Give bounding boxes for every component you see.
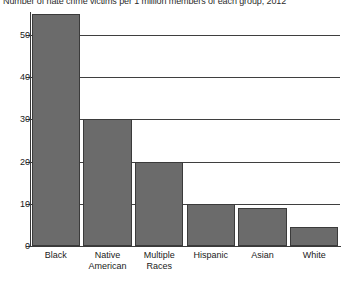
y-tick-label-10: 10 [8,200,30,209]
x-label-native-american: NativeAmerican [83,250,132,272]
bar-asian [238,208,287,246]
y-tick-label-50: 50 [8,31,30,40]
x-label-line1: Hispanic [187,250,236,261]
x-label-multiple-races: MultipleRaces [135,250,184,272]
bar-chart: Number of hate crime victims per 1 milli… [0,0,348,293]
plot-area [30,12,340,246]
x-label-hispanic: Hispanic [187,250,236,261]
x-label-line1: Asian [238,250,287,261]
y-tick-label-wrap: 10 [0,200,30,209]
x-label-line2: Races [135,261,184,272]
x-label-line1: Multiple [135,250,184,261]
y-tick-label-40: 40 [8,73,30,82]
x-axis-line [30,246,341,247]
y-tick-label-wrap: 50 [0,31,30,40]
y-tick-label-0: 0 [8,242,30,251]
x-label-line2: American [83,261,132,272]
x-label-line1: Native [83,250,132,261]
x-label-line1: White [290,250,339,261]
y-tick-label-wrap: 0 [0,242,30,251]
bar-black [32,14,81,246]
y-tick-label-20: 20 [8,158,30,167]
x-label-black: Black [32,250,81,261]
bar-hispanic [187,204,236,246]
bar-white [290,227,339,246]
y-tick-label-30: 30 [8,115,30,124]
chart-title: Number of hate crime victims per 1 milli… [3,0,347,7]
x-label-line1: Black [32,250,81,261]
y-tick-label-wrap: 20 [0,158,30,167]
bar-native-american [83,119,132,246]
y-tick-label-wrap: 30 [0,115,30,124]
bar-multiple-races [135,162,184,246]
x-label-asian: Asian [238,250,287,261]
y-tick-label-wrap: 40 [0,73,30,82]
x-label-white: White [290,250,339,261]
